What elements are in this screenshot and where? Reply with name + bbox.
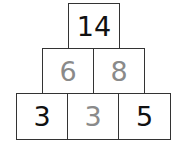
pyramid-cell-middle-right: 8	[93, 48, 145, 94]
pyramid-cell-middle-left: 6	[42, 48, 94, 94]
pyramid-cell-top: 14	[68, 3, 120, 49]
pyramid-cell-bottom-left: 3	[16, 93, 68, 140]
pyramid-cell-bottom-middle: 3	[67, 93, 119, 140]
pyramid-cell-bottom-right: 5	[118, 93, 171, 140]
